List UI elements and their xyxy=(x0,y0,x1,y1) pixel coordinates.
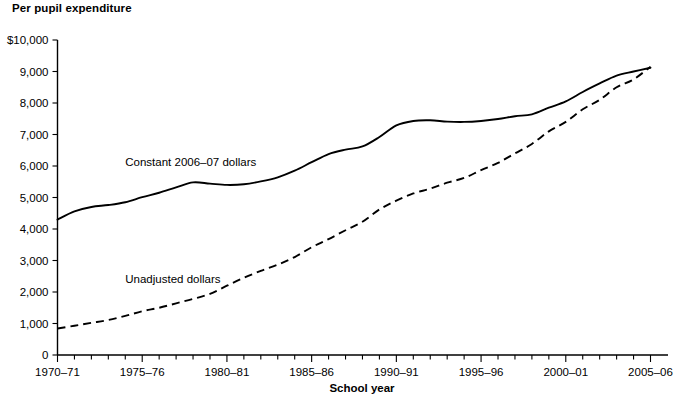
y-tick-label: 8,000 xyxy=(20,97,49,109)
y-tick-label: 4,000 xyxy=(20,223,49,235)
y-axis-group: $10,0009,0008,0007,0006,0005,0004,0003,0… xyxy=(7,34,58,361)
y-tick-label: 5,000 xyxy=(20,192,49,204)
y-tick-label: 2,000 xyxy=(20,286,49,298)
series-label: Unadjusted dollars xyxy=(125,273,221,285)
x-tick-label: 1980–81 xyxy=(205,366,250,378)
x-axis-group: 1970–711975–761980–811985–861990–911995–… xyxy=(35,355,673,378)
x-tick-label: 2005–06 xyxy=(628,366,673,378)
y-axis-ticks xyxy=(53,40,58,355)
x-axis-title: School year xyxy=(329,382,395,394)
per-pupil-expenditure-chart: Per pupil expenditure $10,0009,0008,0007… xyxy=(0,0,677,402)
x-tick-label: 1995–96 xyxy=(459,366,504,378)
y-axis-tick-labels: $10,0009,0008,0007,0006,0005,0004,0003,0… xyxy=(7,34,49,361)
x-tick-label: 1970–71 xyxy=(35,366,80,378)
chart-plot-area: $10,0009,0008,0007,0006,0005,0004,0003,0… xyxy=(0,0,677,402)
y-tick-label: 9,000 xyxy=(20,66,49,78)
series-line-unadjusted-dollars xyxy=(58,67,651,329)
y-tick-label: 3,000 xyxy=(20,255,49,267)
x-tick-label: 1985–86 xyxy=(289,366,334,378)
series-line-constant-dollars xyxy=(58,68,651,220)
x-tick-label: 1990–91 xyxy=(374,366,419,378)
series-label: Constant 2006–07 dollars xyxy=(125,156,256,168)
x-tick-label: 1975–76 xyxy=(120,366,165,378)
y-tick-label: 1,000 xyxy=(20,318,49,330)
data-series-group xyxy=(58,67,651,329)
x-tick-label: 2000–01 xyxy=(543,366,588,378)
series-annotations: Constant 2006–07 dollarsUnadjusted dolla… xyxy=(125,156,256,285)
y-tick-label: 7,000 xyxy=(20,129,49,141)
y-tick-label: $10,000 xyxy=(7,34,49,46)
x-axis-tick-labels: 1970–711975–761980–811985–861990–911995–… xyxy=(35,366,673,378)
x-axis-ticks xyxy=(58,355,651,362)
y-tick-label: 6,000 xyxy=(20,160,49,172)
y-tick-label: 0 xyxy=(42,349,48,361)
